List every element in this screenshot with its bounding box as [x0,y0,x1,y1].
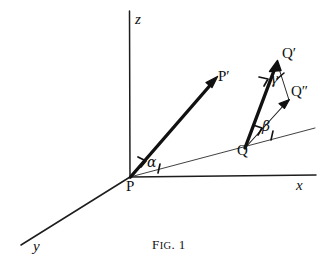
angle-label-gamma: γ [270,72,278,86]
geometry-diagram [0,0,332,268]
axis-group [21,11,316,245]
beta-ray-tick [271,131,273,140]
axis-z-line [130,11,131,178]
point-label-p-prime: P′ [218,69,230,84]
vector-pp-prime-shaft [131,82,214,177]
qprime-qdoubleprime-line [279,67,290,100]
point-label-q-double-prime: Q″ [291,84,308,99]
figure-caption: FIG. 1 [152,237,186,253]
angle-label-alpha: α [147,155,156,169]
point-label-q: Q [237,143,248,158]
axis-label-y: y [33,239,40,254]
point-label-q-prime: Q′ [282,46,296,61]
caption-smallcaps: IG [160,240,172,251]
ground-ray-line [130,128,315,177]
caption-suffix: . 1 [172,237,186,252]
caption-prefix: F [152,237,160,252]
axis-x-line [130,175,316,177]
axis-label-x: x [296,178,303,193]
axis-y-line [21,177,130,245]
alpha-ray-tick [158,164,160,173]
axis-label-z: z [135,12,141,27]
vector-pp-prime [131,77,218,178]
gamma-chevron-mark [259,77,268,86]
vector-qq-prime-arrowhead [270,61,282,72]
angle-label-beta: β [262,119,270,133]
point-label-p: P [126,179,134,194]
figure-container: z x y P P′ Q Q′ Q″ α β γ FIG. 1 [0,0,332,268]
vector-qq-doubleprime-arrowhead [279,100,290,109]
